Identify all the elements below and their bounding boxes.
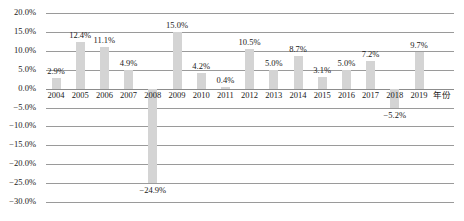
bar-value-label: −5.2% xyxy=(373,111,417,120)
gridline xyxy=(46,202,454,203)
y-axis-tick-label: −25.0% xyxy=(0,178,36,187)
bar xyxy=(52,78,61,89)
x-axis-title: 年份 xyxy=(433,90,451,100)
bar-value-label: 11.1% xyxy=(82,36,126,45)
y-axis-tick-label: 5.0% xyxy=(0,65,36,74)
y-axis-tick-label: 20.0% xyxy=(0,8,36,17)
bar xyxy=(124,70,133,89)
y-axis-tick-label: −15.0% xyxy=(0,140,36,149)
gridline xyxy=(46,145,454,146)
bar-value-label: 2.9% xyxy=(34,67,78,76)
bar xyxy=(342,70,351,89)
gridline xyxy=(46,32,454,33)
x-axis-tick-label: 2019 xyxy=(404,90,434,100)
y-axis-tick-label: 0.0% xyxy=(0,84,36,93)
bar xyxy=(173,32,182,89)
gridline xyxy=(46,164,454,165)
bar-value-label: 15.0% xyxy=(155,21,199,30)
bar xyxy=(269,70,278,89)
gridline xyxy=(46,183,454,184)
bar-value-label: 9.7% xyxy=(397,41,441,50)
bar-value-label: 4.9% xyxy=(107,59,151,68)
bar xyxy=(221,87,230,89)
bar xyxy=(148,89,157,183)
bar-value-label: 4.2% xyxy=(179,62,223,71)
bar-value-label: 10.5% xyxy=(228,38,272,47)
bar-value-label: 8.7% xyxy=(276,45,320,54)
y-axis-tick-label: 10.0% xyxy=(0,46,36,55)
bar xyxy=(415,52,424,89)
bar xyxy=(366,61,375,88)
bar-value-label: 5.0% xyxy=(324,59,368,68)
y-axis-tick-label: −10.0% xyxy=(0,121,36,130)
bar-value-label: 7.2% xyxy=(349,50,393,59)
y-axis-tick-label: 15.0% xyxy=(0,27,36,36)
y-axis-tick-label: −20.0% xyxy=(0,159,36,168)
gridline xyxy=(46,13,454,14)
bar xyxy=(245,49,254,89)
bar-value-label: 0.4% xyxy=(203,76,247,85)
gridline xyxy=(46,126,454,127)
bar-value-label: 5.0% xyxy=(252,59,296,68)
y-axis-tick-label: −5.0% xyxy=(0,103,36,112)
bar-chart: 20.0%15.0%10.0%5.0%0.0%−5.0%−10.0%−15.0%… xyxy=(0,0,464,221)
bar xyxy=(318,77,327,89)
y-axis-tick-label: −30.0% xyxy=(0,197,36,206)
plot-area: 20.0%15.0%10.0%5.0%0.0%−5.0%−10.0%−15.0%… xyxy=(46,0,454,221)
bar-value-label: −24.9% xyxy=(131,186,175,195)
bar xyxy=(76,42,85,89)
